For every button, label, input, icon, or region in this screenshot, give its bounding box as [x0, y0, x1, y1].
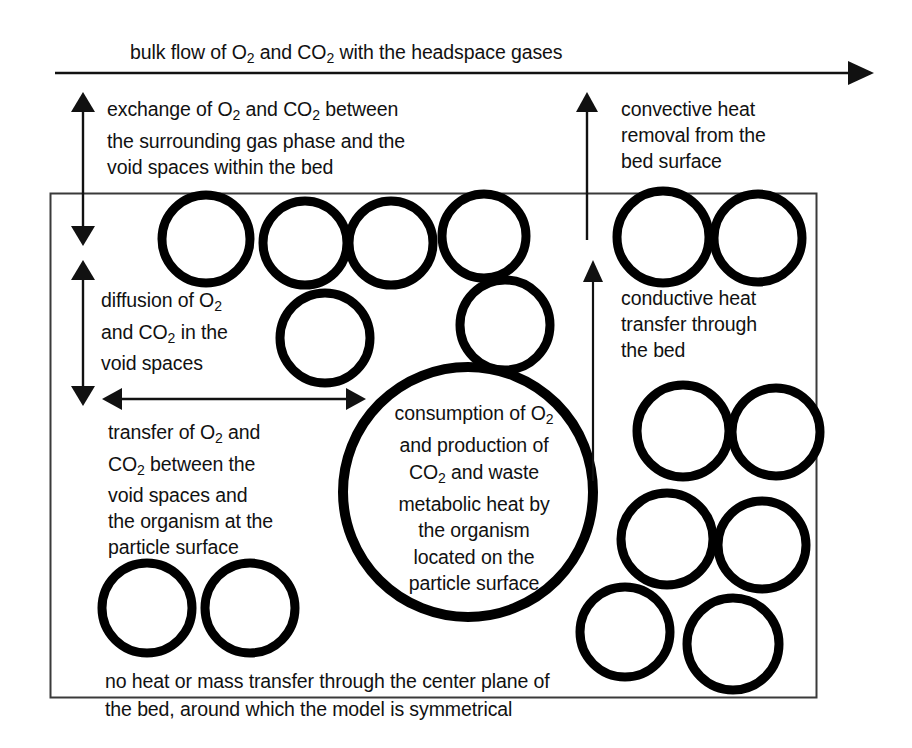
consumption-label: consumption of O2and production ofCO2 an… — [358, 400, 590, 597]
particle-9 — [637, 385, 729, 477]
bulk-flow-label: bulk flow of O2 and CO2 with the headspa… — [130, 39, 770, 71]
particle-11 — [621, 493, 713, 585]
particle-3 — [349, 201, 433, 285]
particle-13 — [580, 587, 670, 677]
particle-1 — [162, 195, 250, 283]
particle-6 — [714, 194, 802, 282]
particle-5 — [617, 191, 709, 283]
conductive-heat-label: conductive heattransfer throughthe bed — [621, 285, 851, 363]
particle-4 — [442, 194, 526, 278]
particle-2 — [263, 201, 347, 285]
particle-8 — [460, 280, 550, 370]
particle-15 — [102, 563, 192, 653]
particle-10 — [732, 388, 820, 476]
center-plane-label: no heat or mass transfer through the cen… — [105, 667, 745, 723]
particle-16 — [205, 563, 295, 653]
packed-bed-diagram: bulk flow of O2 and CO2 with the headspa… — [0, 0, 912, 748]
exchange-label: exchange of O2 and CO2 betweenthe surrou… — [107, 96, 567, 180]
diffusion-label: diffusion of O2and CO2 in thevoid spaces — [101, 287, 331, 376]
transfer-label: transfer of O2 andCO2 between thevoid sp… — [108, 419, 338, 560]
particle-12 — [718, 501, 806, 589]
convective-heat-label: convective heatremoval from thebed surfa… — [621, 96, 871, 174]
